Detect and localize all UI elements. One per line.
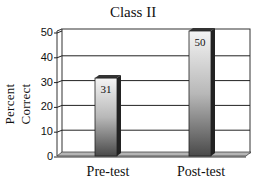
- x-label-post-test: Post-test: [161, 164, 241, 180]
- data-label-post-test: 50: [189, 36, 211, 48]
- y-tick-50: 50: [35, 26, 53, 38]
- bar-chart: Class II Percent Correct 01020304050 315…: [0, 0, 266, 187]
- y-tick-0: 0: [35, 150, 53, 162]
- y-tick-30: 30: [35, 76, 53, 88]
- chart-floor: [57, 152, 251, 156]
- y-tick-20: 20: [35, 100, 53, 112]
- data-label-pre-test: 31: [95, 83, 117, 95]
- y-tick-10: 10: [35, 125, 53, 137]
- x-label-pre-test: Pre-test: [68, 164, 148, 180]
- y-tick-40: 40: [35, 51, 53, 63]
- back-wall: [62, 29, 250, 153]
